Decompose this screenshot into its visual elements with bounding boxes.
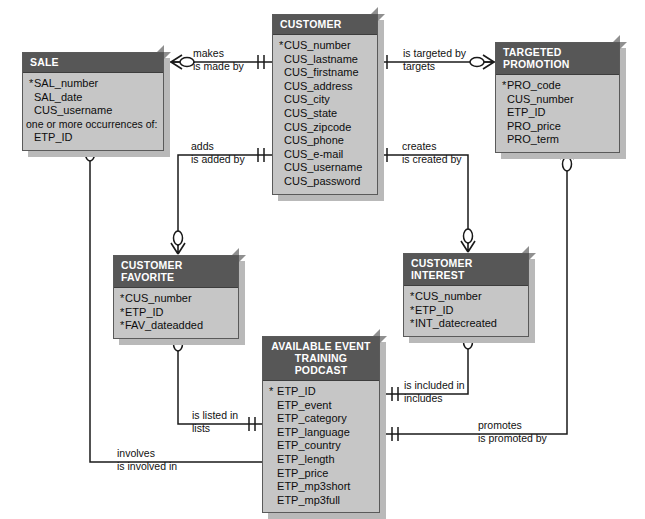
entity-sale[interactable]: SALE *SAL_number SAL_date CUS_username o… [22,52,164,151]
attribute-label: CUS_city [284,93,330,105]
entity-attributes: *CUS_number *ETP_ID *FAV_dateadded [114,288,238,338]
attribute-label: CUS_number [125,292,192,304]
verb-label-top: adds [191,140,245,153]
attribute-label: ETP_ID [415,304,454,316]
attribute-label: CUS_phone [284,134,344,146]
attribute-row: ETP_mp3full [269,494,373,508]
attribute-row: CUS_lastname [279,53,371,67]
attribute-label: ETP_category [277,412,347,424]
entity-attributes: *PRO_code CUS_number ETP_ID PRO_price PR… [496,75,619,152]
entity-body: TARGETED PROMOTION *PRO_code CUS_number … [495,42,620,153]
attribute-note: one or more occurrences of: [26,118,157,132]
attribute-label: ETP_ID [277,385,316,397]
attribute-row: *PRO_code [502,79,613,93]
attribute-label: FAV_dateadded [125,319,203,331]
verb-label-bottom: is added by [191,153,245,166]
attribute-row: CUS_state [279,107,371,121]
attribute-label: CUS_address [284,80,352,92]
entity-title-sale: SALE [23,53,163,73]
verb-is-listed-in: is listed in lists [192,409,238,435]
attribute-row: *CUS_number [120,292,232,306]
line-customer-favorite [178,155,272,246]
attribute-row: *CUS_number [410,290,522,304]
line-customer-interest [378,155,468,244]
attribute-row: SAL_date [29,91,157,105]
entity-customer-favorite[interactable]: CUSTOMER FAVORITE *CUS_number *ETP_ID *F… [113,255,239,339]
entity-available-event-training-podcast[interactable]: AVAILABLE EVENT TRAINING PODCAST * ETP_I… [262,336,380,513]
attribute-row: ETP_ID [29,131,157,145]
pk-marker: * [269,385,274,399]
entity-title-line1: AVAILABLE EVENT [271,340,370,352]
entity-attributes: *CUS_number CUS_lastname CUS_firstname C… [273,35,377,194]
attribute-row: *ETP_ID [410,304,522,318]
verb-label-bottom: is created by [402,153,462,166]
attribute-label: ETP_ID [507,106,546,118]
entity-title-podcast: AVAILABLE EVENT TRAINING PODCAST [263,337,379,381]
entity-body: AVAILABLE EVENT TRAINING PODCAST * ETP_I… [262,336,380,513]
verb-label-top: is targeted by [403,47,466,60]
attribute-label: PRO_term [507,133,559,145]
entity-body: CUSTOMER INTEREST *CUS_number *ETP_ID *I… [403,253,529,337]
attribute-row: CUS_address [279,80,371,94]
attribute-label: CUS_number [284,39,351,51]
attribute-label: ETP_length [277,453,334,465]
entity-targeted-promotion[interactable]: TARGETED PROMOTION *PRO_code CUS_number … [495,42,620,153]
entity-title-targeted-promotion: TARGETED PROMOTION [496,43,619,75]
entity-customer[interactable]: CUSTOMER *CUS_number CUS_lastname CUS_fi… [272,14,378,195]
verb-adds: adds is added by [191,140,245,166]
verb-label-bottom: targets [403,60,466,73]
attribute-label: SAL_number [34,77,98,89]
attribute-row: CUS_password [279,175,371,189]
attribute-label: one or more occurrences of: [26,118,157,130]
entity-body: SALE *SAL_number SAL_date CUS_username o… [22,52,164,151]
entity-title-customer-interest: CUSTOMER INTEREST [404,254,528,286]
attribute-label: CUS_username [284,161,362,173]
entity-title-line2: TRAINING PODCAST [295,352,348,376]
verb-creates: creates is created by [402,140,462,166]
attribute-label: SAL_date [34,91,82,103]
attribute-row: ETP_mp3short [269,480,373,494]
attribute-label: ETP_mp3short [277,480,350,492]
attribute-label: ETP_ID [34,131,73,143]
attribute-row: CUS_zipcode [279,121,371,135]
attribute-label: CUS_password [284,175,360,187]
attribute-label: ETP_ID [125,306,164,318]
entity-body: CUSTOMER FAVORITE *CUS_number *ETP_ID *F… [113,255,239,339]
attribute-label: CUS_number [415,290,482,302]
verb-label-top: makes [193,47,244,60]
attribute-row: ETP_category [269,412,373,426]
attribute-label: CUS_firstname [284,66,359,78]
entity-attributes: * ETP_ID ETP_event ETP_category ETP_lang… [263,381,379,512]
attribute-row: *CUS_number [279,39,371,53]
entity-title-customer-favorite: CUSTOMER FAVORITE [114,256,238,288]
verb-is-included-in: is included in includes [404,379,465,405]
attribute-label: CUS_lastname [284,53,358,65]
verb-involves: involves is involved in [117,447,177,473]
attribute-row: PRO_price [502,120,613,134]
attribute-label: CUS_zipcode [284,121,351,133]
attribute-label: INT_datecreated [415,317,497,329]
attribute-row: *FAV_dateadded [120,319,232,333]
attribute-row: CUS_username [29,104,157,118]
entity-title-customer: CUSTOMER [273,15,377,35]
attribute-row: CUS_number [502,93,613,107]
entity-customer-interest[interactable]: CUSTOMER INTEREST *CUS_number *ETP_ID *I… [403,253,529,337]
verb-label-top: is included in [404,379,465,392]
verb-label-bottom: is involved in [117,460,177,473]
verb-label-bottom: is made by [193,60,244,73]
verb-label-top: is listed in [192,409,238,422]
attribute-label: CUS_state [284,107,337,119]
entity-body: CUSTOMER *CUS_number CUS_lastname CUS_fi… [272,14,378,195]
attribute-row: CUS_city [279,93,371,107]
verb-label-top: promotes [478,419,547,432]
verb-label-top: creates [402,140,462,153]
attribute-label: CUS_number [507,93,574,105]
attribute-row: CUS_phone [279,134,371,148]
verb-label-bottom: includes [404,392,465,405]
attribute-row: *ETP_ID [120,306,232,320]
attribute-row: CUS_e-mail [279,148,371,162]
attribute-label: ETP_event [277,399,331,411]
attribute-row: CUS_firstname [279,66,371,80]
entity-attributes: *SAL_number SAL_date CUS_username one or… [23,73,163,150]
